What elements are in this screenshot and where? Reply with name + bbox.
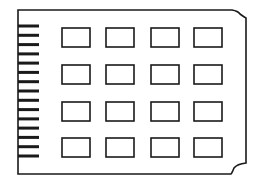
chip xyxy=(62,28,90,47)
chip xyxy=(62,102,90,121)
chip xyxy=(194,102,222,121)
chip xyxy=(151,28,179,47)
connector-finger xyxy=(18,34,39,37)
circuit-board-diagram xyxy=(0,0,264,187)
chip xyxy=(106,138,134,157)
chip xyxy=(151,65,179,84)
connector-finger xyxy=(18,136,39,139)
connector-finger xyxy=(18,108,39,111)
chip xyxy=(194,138,222,157)
chip xyxy=(194,28,222,47)
chip-grid xyxy=(62,28,222,157)
connector-finger xyxy=(18,90,39,93)
board-outline xyxy=(18,10,246,174)
circuit-board-drawing xyxy=(0,0,264,187)
chip xyxy=(106,65,134,84)
chip xyxy=(106,28,134,47)
chip xyxy=(106,102,134,121)
connector-finger xyxy=(18,52,39,55)
edge-connector xyxy=(18,25,39,158)
connector-finger xyxy=(18,71,39,74)
connector-finger xyxy=(18,80,39,83)
chip xyxy=(62,65,90,84)
connector-finger xyxy=(18,127,39,130)
connector-finger xyxy=(18,62,39,65)
chip xyxy=(151,138,179,157)
connector-finger xyxy=(18,25,39,28)
chip xyxy=(151,102,179,121)
connector-finger xyxy=(18,145,39,148)
connector-finger xyxy=(18,99,39,102)
connector-finger xyxy=(18,43,39,46)
connector-finger xyxy=(18,117,39,120)
chip xyxy=(194,65,222,84)
chip xyxy=(62,138,90,157)
connector-finger xyxy=(18,155,39,158)
